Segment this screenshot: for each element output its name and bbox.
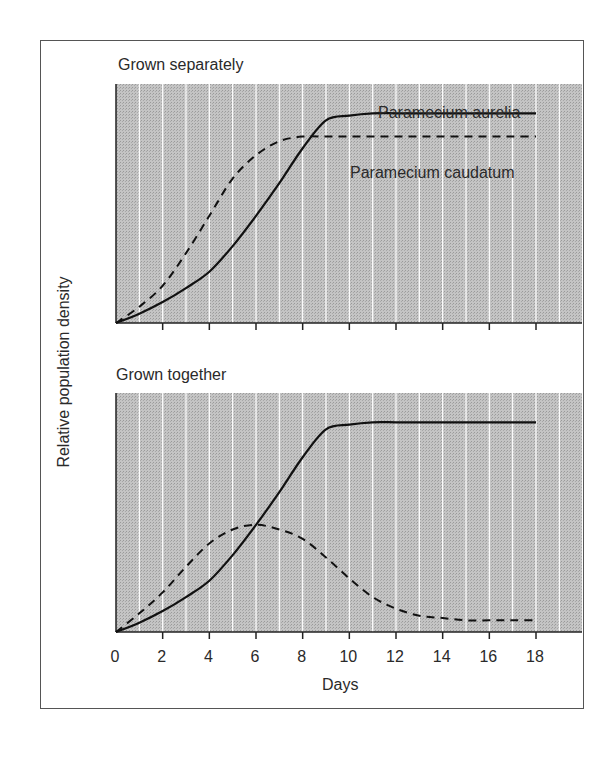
x-tick-label: 8	[297, 648, 306, 666]
chart-svg	[0, 0, 616, 757]
x-tick-label: 12	[386, 648, 404, 666]
x-tick-label: 6	[251, 648, 260, 666]
legend-label-caudatum: Paramecium caudatum	[350, 164, 515, 182]
panel-grown-together	[116, 393, 582, 639]
panel2-title: Grown together	[116, 366, 226, 384]
x-tick-label: 18	[526, 648, 544, 666]
x-axis-label: Days	[322, 676, 358, 694]
x-tick-label: 2	[157, 648, 166, 666]
x-tick-label: 14	[433, 648, 451, 666]
x-tick-label: 16	[479, 648, 497, 666]
x-tick-label: 4	[204, 648, 213, 666]
x-tick-label: 0	[111, 648, 120, 666]
y-axis-label: Relative population density	[55, 276, 73, 467]
x-tick-label: 10	[339, 648, 357, 666]
legend-label-aurelia: Paramecium aurelia	[378, 104, 520, 122]
panel1-title: Grown separately	[118, 56, 243, 74]
